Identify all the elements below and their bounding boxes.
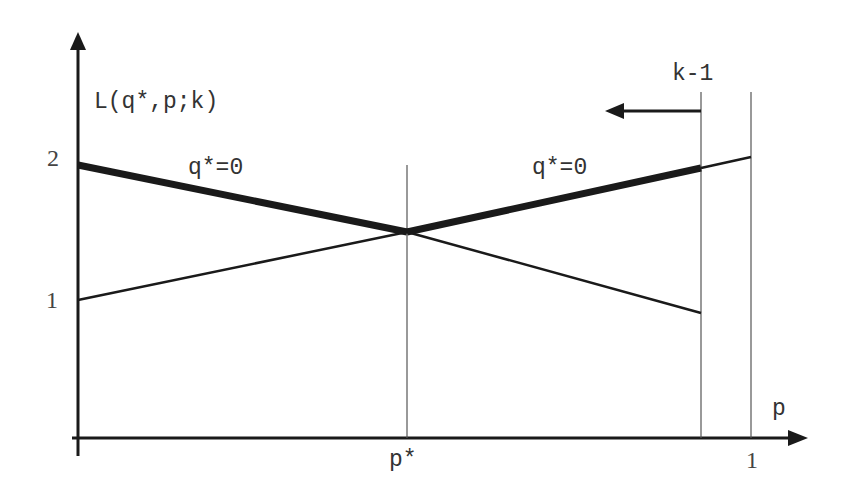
- x-axis-label: p: [772, 396, 786, 422]
- y-axis-label: L(q*,p;k): [94, 89, 218, 115]
- x-axis: [72, 430, 808, 446]
- decreasing-line-thin: [407, 232, 701, 313]
- segment-label-left: q*=0: [188, 155, 243, 181]
- k-minus-1-label: k-1: [672, 61, 713, 87]
- loss-diagram: L(q*,p;k) 2 1 q*=0 q*=0 k-1 p p* 1: [0, 0, 846, 494]
- x-tick-1: 1: [746, 447, 758, 473]
- y-tick-2: 2: [47, 145, 59, 171]
- x-tick-p-star: p*: [389, 447, 417, 473]
- segment-label-right: q*=0: [532, 155, 587, 181]
- shift-left-arrow: [605, 103, 701, 119]
- increasing-line-tail: [701, 157, 751, 168]
- y-axis-arrow-icon: [70, 32, 86, 50]
- y-axis: [70, 32, 86, 456]
- x-axis-arrow-icon: [788, 430, 808, 446]
- arrow-left-icon: [605, 103, 624, 119]
- increasing-line-thin: [78, 232, 407, 300]
- y-tick-1: 1: [46, 287, 58, 313]
